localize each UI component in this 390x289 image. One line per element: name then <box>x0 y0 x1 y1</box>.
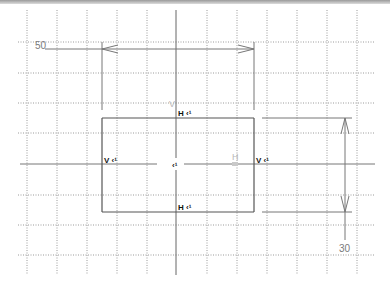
constraint-left-vertical[interactable]: V ‹¹ <box>104 156 117 165</box>
constraint-bottom-horizontal[interactable]: H ‹¹ <box>178 203 192 212</box>
dimension-height-value[interactable]: 30 <box>339 243 351 254</box>
constraint-right-vertical[interactable]: V ‹¹ <box>256 156 269 165</box>
constraint-origin[interactable]: ‹¹ <box>172 161 178 170</box>
v-axis-label: V <box>169 99 175 109</box>
dimension-height[interactable] <box>262 118 352 240</box>
constraint-top-horizontal[interactable]: H ‹¹ <box>178 109 192 118</box>
grid <box>18 10 375 275</box>
rectangle-profile[interactable] <box>102 118 254 212</box>
h-axis-arrow-icon <box>232 162 238 166</box>
h-axis-label: H <box>232 152 239 162</box>
sketch-canvas[interactable]: H V H ‹¹ H ‹¹ V ‹¹ V ‹¹ ‹¹ 50 30 <box>0 0 390 289</box>
dimension-width-value[interactable]: 50 <box>35 40 47 51</box>
dimension-width[interactable] <box>45 42 254 110</box>
